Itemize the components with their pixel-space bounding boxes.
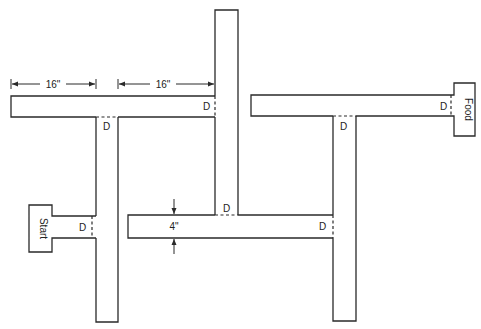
dimension-16in-left: 16" [11,79,96,90]
door-label: D [103,121,110,132]
left-t-section: D D [11,96,215,322]
door-label: D [203,101,210,112]
width-label: 4" [169,221,179,232]
maze-diagram: 16" 16" D D D Start D [0,0,481,329]
dimension-16in-right: 16" [118,79,214,90]
right-t-section: D [251,95,451,321]
door-label: D [440,101,447,112]
door-label: D [340,121,347,132]
dimension-label: 16" [46,79,61,90]
food-box: D Food [440,83,475,136]
dimension-label: 16" [156,79,171,90]
start-box: D Start [29,205,96,252]
lower-bar: D 4" [128,199,333,254]
food-label: Food [463,98,474,121]
door-label: D [319,221,326,232]
tall-center-stem: D [215,10,238,215]
start-label: Start [38,218,49,239]
door-label: D [223,203,230,214]
door-label: D [79,222,86,233]
